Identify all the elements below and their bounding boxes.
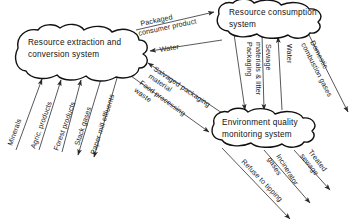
node-resource-consumption-line2: system bbox=[229, 20, 256, 29]
node-resource-extraction-line1: Resource extraction and bbox=[28, 38, 122, 47]
svg-text:Paper mill effluents: Paper mill effluents bbox=[88, 93, 116, 156]
diagram-canvas: Resource extraction and conversion syste… bbox=[0, 0, 356, 223]
label-stack-gases: Stack gases bbox=[72, 105, 93, 146]
svg-text:Minerals: Minerals bbox=[5, 117, 23, 147]
label-treated-sewage: Treated sewage bbox=[298, 146, 329, 179]
label-paper-mill-effluents: Paper mill effluents bbox=[88, 93, 116, 156]
node-environment-quality-line2: monitoring system bbox=[222, 130, 292, 139]
node-resource-extraction-line2: conversion system bbox=[28, 50, 99, 59]
node-environment-quality-shape[interactable] bbox=[212, 108, 315, 147]
label-water-to-extraction: Water bbox=[159, 42, 180, 54]
svg-text:Sewage: Sewage bbox=[264, 44, 273, 71]
svg-text:Stack gases: Stack gases bbox=[72, 105, 93, 146]
node-environment-quality-line1: Environment quality bbox=[222, 118, 298, 127]
svg-text:materials & litter: materials & litter bbox=[254, 42, 263, 96]
label-packaged-consumer-product: Packaged consumer product bbox=[136, 8, 198, 38]
label-water-to-consumption: Water bbox=[285, 44, 294, 64]
label-minerals: Minerals bbox=[5, 117, 23, 147]
node-resource-consumption-line1: Resource consumption bbox=[229, 8, 317, 17]
svg-text:Water: Water bbox=[285, 44, 294, 64]
edge-packaging-materials-litter bbox=[234, 34, 245, 110]
svg-text:Water: Water bbox=[159, 42, 180, 54]
label-packaging-materials-litter: Packaging materials & litter bbox=[245, 42, 263, 96]
system-flow-diagram: Resource extraction and conversion syste… bbox=[0, 0, 356, 223]
svg-text:Packaging: Packaging bbox=[245, 42, 254, 76]
label-domestic-combustion-gases: Domestic combustion gases bbox=[299, 37, 342, 98]
label-sewage: Sewage bbox=[264, 44, 273, 71]
edge-water-to-consumption bbox=[278, 37, 282, 110]
